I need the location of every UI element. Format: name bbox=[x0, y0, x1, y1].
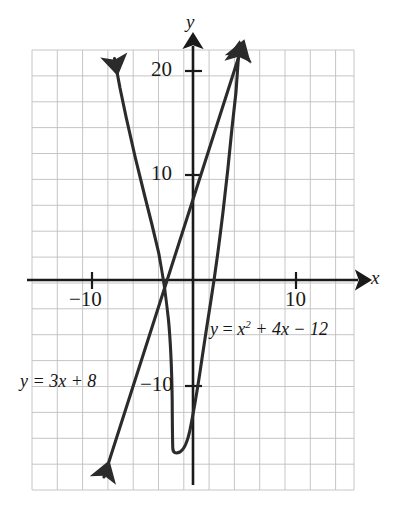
x-axis-label: x bbox=[371, 268, 379, 287]
parabola-equation-label: y = x2 + 4x − 12 bbox=[210, 320, 328, 338]
parabola-eq-rest: + 4x − 12 bbox=[255, 319, 328, 339]
line-equation-label: y = 3x + 8 bbox=[20, 372, 96, 390]
y-axis-label: y bbox=[186, 12, 194, 31]
y-tick-label-20: 20 bbox=[151, 59, 172, 80]
y-tick-label-minus10: −10 bbox=[140, 374, 173, 395]
coordinate-plot bbox=[0, 0, 395, 515]
y-tick-label-10: 10 bbox=[151, 163, 172, 184]
parabola-eq-exponent: 2 bbox=[245, 318, 251, 330]
graph-figure: y x 20 10 −10 −10 10 y = x2 + 4x − 12 y … bbox=[0, 0, 395, 515]
x-tick-label-10: 10 bbox=[285, 289, 306, 310]
x-tick-label-minus10: −10 bbox=[69, 289, 102, 310]
parabola-eq-base: x bbox=[237, 319, 245, 339]
parabola-eq-equals: = bbox=[223, 319, 233, 339]
parabola-eq-lhs: y bbox=[210, 319, 218, 339]
